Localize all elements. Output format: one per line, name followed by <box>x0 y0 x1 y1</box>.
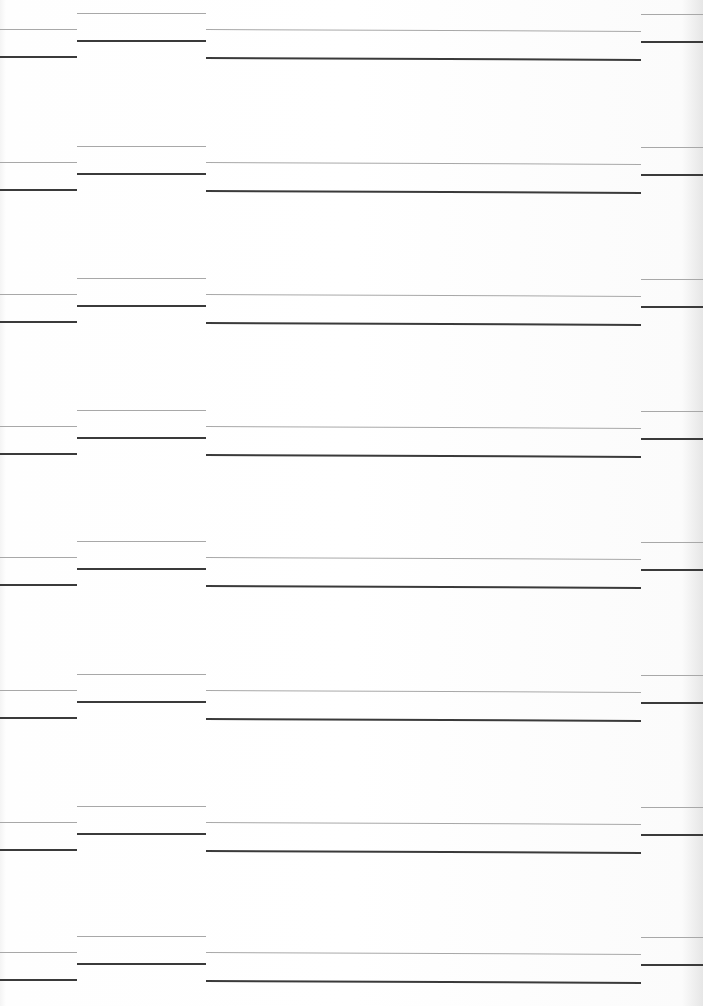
rule-line <box>0 426 77 427</box>
rule-line <box>206 322 641 325</box>
rule-line <box>206 57 641 60</box>
rule-line <box>77 13 206 14</box>
rule-line <box>77 541 206 542</box>
rule-line <box>641 306 703 308</box>
rule-line <box>0 822 77 823</box>
rule-line <box>206 426 641 429</box>
rule-line <box>0 29 77 30</box>
rule-line <box>206 822 641 825</box>
rule-line <box>641 14 703 15</box>
rule-line <box>0 294 77 295</box>
rule-line <box>641 675 703 676</box>
rule-line <box>0 979 77 981</box>
ruled-page <box>0 0 703 1006</box>
rule-line <box>206 718 641 721</box>
rule-line <box>641 834 703 836</box>
rule-line <box>206 29 641 32</box>
rule-line <box>641 807 703 808</box>
rule-line <box>77 278 206 279</box>
rule-line <box>206 294 641 297</box>
rule-line <box>77 833 206 835</box>
rule-line <box>77 963 206 965</box>
rule-line <box>77 146 206 147</box>
rule-line <box>0 321 77 323</box>
rule-line <box>641 542 703 543</box>
rule-line <box>77 410 206 411</box>
rule-line <box>206 557 641 560</box>
rule-line <box>641 569 703 571</box>
rule-line <box>641 411 703 412</box>
rule-line <box>0 453 77 455</box>
rule-line <box>77 173 206 175</box>
rule-line <box>0 690 77 691</box>
rule-line <box>77 674 206 675</box>
rule-line <box>206 190 641 193</box>
rule-line <box>206 952 641 955</box>
rule-line <box>0 56 77 58</box>
rule-line <box>0 952 77 953</box>
rule-line <box>0 849 77 851</box>
rule-line <box>0 717 77 719</box>
rule-line <box>206 162 641 165</box>
rule-line <box>206 850 641 853</box>
rule-line <box>641 174 703 176</box>
rule-line <box>641 41 703 43</box>
rule-line <box>77 568 206 570</box>
rule-line <box>641 279 703 280</box>
rule-line <box>77 806 206 807</box>
rule-line <box>641 964 703 966</box>
rule-line <box>77 40 206 42</box>
rule-line <box>0 557 77 558</box>
rule-line <box>206 690 641 693</box>
rule-line <box>641 702 703 704</box>
rule-line <box>641 937 703 938</box>
rule-line <box>641 147 703 148</box>
rule-line <box>641 438 703 440</box>
rule-line <box>206 980 641 983</box>
rule-line <box>0 189 77 191</box>
rule-line <box>77 701 206 703</box>
rule-line <box>0 162 77 163</box>
rule-line <box>206 585 641 588</box>
rule-line <box>77 936 206 937</box>
rule-line <box>77 305 206 307</box>
rule-line <box>0 584 77 586</box>
rule-line <box>77 437 206 439</box>
rule-line <box>206 454 641 457</box>
